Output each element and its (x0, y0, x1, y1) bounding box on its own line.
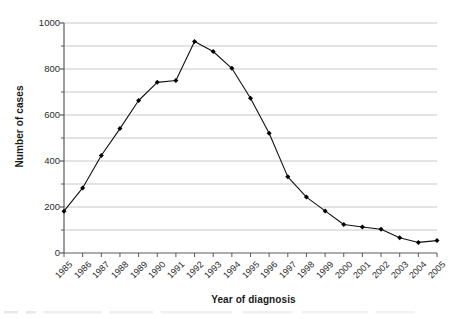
x-tick-label: 1989 (128, 260, 149, 281)
x-tick-label: 1990 (147, 260, 168, 281)
x-tick-label: 1985 (54, 260, 75, 281)
x-tick-label: 1987 (91, 260, 112, 281)
x-tick-label: 1997 (278, 260, 299, 281)
x-tick-label: 1998 (296, 260, 317, 281)
x-tick-label: 1986 (72, 260, 93, 281)
x-tick-label: 1991 (166, 260, 187, 281)
x-tick-label: 2001 (352, 260, 373, 281)
x-axis-tick-labels: 1985198619871988198919901991199219931994… (0, 0, 455, 319)
x-tick-label: 1988 (110, 260, 131, 281)
x-tick-label: 2002 (371, 260, 392, 281)
x-tick-label: 1994 (222, 260, 243, 281)
x-axis-title: Year of diagnosis (0, 294, 455, 305)
x-tick-label: 2004 (408, 260, 429, 281)
x-tick-label: 1992 (184, 260, 205, 281)
x-tick-label: 2005 (427, 260, 448, 281)
line-chart: Number of cases 02004006008001000 198519… (0, 0, 455, 319)
x-tick-label: 1999 (315, 260, 336, 281)
x-tick-label: 2003 (390, 260, 411, 281)
page-artifact (4, 309, 441, 315)
x-tick-label: 2000 (334, 260, 355, 281)
x-tick-label: 1995 (240, 260, 261, 281)
x-tick-label: 1993 (203, 260, 224, 281)
x-tick-label: 1996 (259, 260, 280, 281)
